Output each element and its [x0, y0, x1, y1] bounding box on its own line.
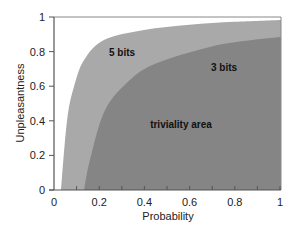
x-tick-label: 0 — [51, 196, 57, 208]
y-tick-label: 0.8 — [30, 46, 45, 58]
x-tick-label: 0.4 — [137, 196, 152, 208]
y-tick-label: 0.4 — [30, 115, 45, 127]
y-tick-label: 1 — [39, 11, 45, 23]
y-tick-label: 0.6 — [30, 80, 45, 92]
y-axis-label: Unpleasantness — [14, 63, 26, 142]
unpleasantness-probability-chart: 0 0.2 0.4 0.6 0.8 1 0 0.2 0.4 0.6 0.8 1 … — [0, 0, 296, 233]
x-tick-labels: 0 0.2 0.4 0.6 0.8 1 — [51, 196, 283, 208]
three-bits-label: 3 bits — [211, 62, 238, 73]
y-tick-labels: 0 0.2 0.4 0.6 0.8 1 — [30, 11, 45, 196]
triviality-area-label: triviality area — [150, 119, 212, 130]
y-tick-label: 0 — [39, 184, 45, 196]
y-ticks — [49, 17, 54, 190]
five-bits-label: 5 bits — [109, 47, 136, 58]
y-tick-label: 0.2 — [30, 149, 45, 161]
x-tick-label: 0.6 — [182, 196, 197, 208]
x-axis-label: Probability — [142, 210, 194, 222]
x-tick-label: 0.2 — [92, 196, 107, 208]
x-tick-label: 1 — [277, 196, 283, 208]
x-tick-label: 0.8 — [227, 196, 242, 208]
